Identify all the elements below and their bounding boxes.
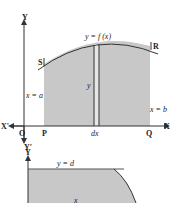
inner-x-label: x xyxy=(73,196,78,203)
point-p-label: P xyxy=(42,129,47,138)
x-neg-axis-label: X' xyxy=(1,122,9,131)
strip-gap xyxy=(94,44,99,126)
x-axis-label: X xyxy=(164,122,170,131)
top-bound-label: y = d xyxy=(56,159,75,168)
left-bound-label: x = a xyxy=(25,91,43,100)
y-axis-label: Y xyxy=(22,13,28,22)
strip-width-label: dx xyxy=(91,129,99,138)
strip-height-label: y xyxy=(86,81,91,90)
curve-label: y = f (x) xyxy=(84,32,111,41)
right-bound-label: x = b xyxy=(149,105,167,114)
area-under-curve-diagrams: Y y = f (x) S R x = a x = b y dx X' O P … xyxy=(0,0,171,203)
point-s-label: S xyxy=(38,58,43,67)
figure-1: Y y = f (x) S R x = a x = b y dx X' O P … xyxy=(1,13,170,152)
y-axis-label-2: Y xyxy=(25,148,31,157)
point-q-label: Q xyxy=(146,129,152,138)
origin-label: O xyxy=(19,129,25,138)
point-r-label: R xyxy=(153,42,159,51)
figure-2: Y y = d x xyxy=(25,148,136,203)
